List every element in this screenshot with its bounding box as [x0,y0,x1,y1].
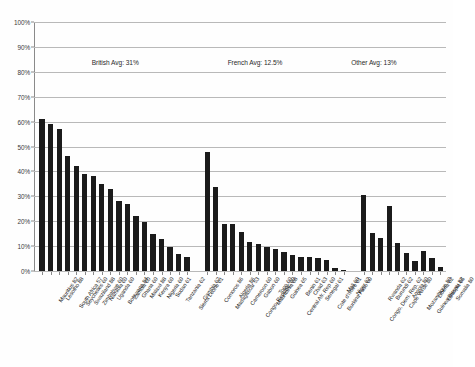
bar [133,216,138,271]
x-tick-mark [59,272,60,275]
bar [239,232,244,271]
bar [247,242,252,271]
y-tick-label: 60% [18,118,31,125]
x-tick-mark [207,272,208,275]
group-average-annotation: French Avg: 12.5% [228,59,283,66]
x-tick-mark [310,272,311,275]
bar [298,257,303,271]
bar [315,258,320,271]
group-average-annotation: British Avg: 31% [92,59,139,66]
bar [159,239,164,271]
bar [82,174,87,271]
x-tick-mark [250,272,251,275]
x-axis-labels: Mauritius 82Lesotho 88South Africa 57Sey… [0,276,453,366]
x-tick-mark [415,272,416,275]
y-tick-label: 90% [18,43,31,50]
y-tick-label: 40% [18,168,31,175]
bar [264,247,269,271]
x-tick-mark [389,272,390,275]
x-tick-mark [162,272,163,275]
x-tick-mark [432,272,433,275]
x-tick-mark [119,272,120,275]
x-tick-mark [42,272,43,275]
bar [273,249,278,271]
x-tick-mark [364,272,365,275]
x-tick-mark [136,272,137,275]
x-tick-mark [110,272,111,275]
bar [370,233,375,271]
y-tick-label: 80% [18,68,31,75]
bar [378,238,383,271]
bar [184,257,189,271]
x-tick-mark [284,272,285,275]
bar [412,261,417,271]
x-tick-mark [258,272,259,275]
x-tick-mark [102,272,103,275]
x-tick-mark [224,272,225,275]
bar [324,260,329,271]
x-tick-mark [372,272,373,275]
x-tick-mark [327,272,328,275]
bar [230,224,235,271]
y-tick-label: 30% [18,193,31,200]
x-tick-mark [335,272,336,275]
y-tick-label: 50% [18,143,31,150]
y-tick-label: 70% [18,93,31,100]
y-tick-label: 100% [14,19,30,26]
bar [150,234,155,271]
x-tick-mark [318,272,319,275]
bar [108,189,113,271]
bar [142,222,147,271]
x-tick-mark [170,272,171,275]
x-tick-mark [51,272,52,275]
bar [74,166,79,271]
bar [205,152,210,271]
x-tick-mark [292,272,293,275]
bar [395,243,400,271]
y-tick-label: 20% [18,218,31,225]
bar [57,129,62,271]
bar [429,258,434,271]
bar [167,247,172,271]
bar [387,206,392,271]
bar [421,251,426,271]
x-tick-mark [179,272,180,275]
bar [256,244,261,271]
x-tick-mark [93,272,94,275]
x-tick-mark [127,272,128,275]
bar [48,124,53,271]
bar [65,156,70,271]
bar [125,204,130,271]
bar [222,224,227,271]
bar [176,254,181,271]
bar [91,176,96,271]
x-tick-mark [187,272,188,275]
bar [361,195,366,271]
x-tick-mark [241,272,242,275]
x-tick-mark [68,272,69,275]
bar [341,270,346,271]
bar [39,119,44,271]
x-tick-mark [381,272,382,275]
bar [332,268,337,271]
bar [281,252,286,271]
bar [307,257,312,271]
bar [99,184,104,271]
x-tick-mark [76,272,77,275]
gridline [34,271,446,272]
bar [116,201,121,271]
x-tick-mark [398,272,399,275]
bar [404,253,409,271]
x-tick-mark [301,272,302,275]
x-tick-mark [85,272,86,275]
x-tick-mark [144,272,145,275]
group-average-annotation: Other Avg: 13% [351,59,396,66]
y-tick-label: 0% [21,268,30,275]
bar [290,255,295,271]
x-tick-mark [440,272,441,275]
x-tick-mark [216,272,217,275]
y-tick-label: 10% [18,243,31,250]
bar [438,267,443,271]
x-tick-mark [344,272,345,275]
